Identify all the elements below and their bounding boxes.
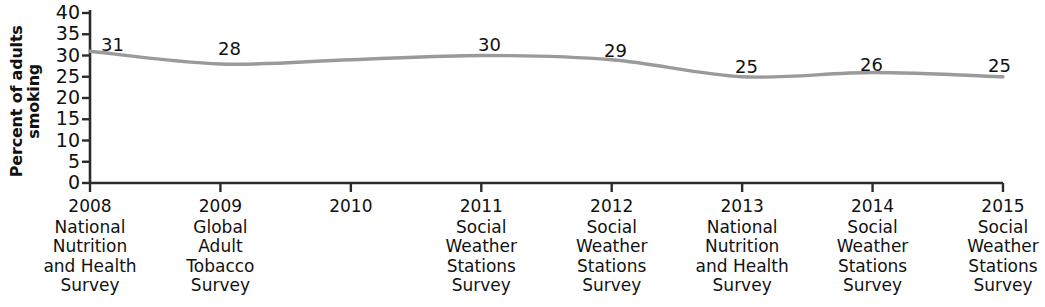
x-tick-survey-line: Social [406, 218, 556, 238]
x-tick-survey-line: Weather [537, 237, 687, 257]
data-value-label: 25 [735, 58, 758, 76]
x-tick-survey-line: Weather [406, 237, 556, 257]
x-tick-year: 2014 [798, 197, 948, 217]
x-tick-survey-line: Survey [928, 276, 1045, 296]
data-value-label: 28 [218, 40, 241, 58]
x-tick-survey-line: Stations [928, 257, 1045, 277]
x-axis-tick-marks [90, 183, 1003, 192]
data-value-label: 29 [604, 42, 627, 60]
x-tick-survey-line: Survey [537, 276, 687, 296]
x-tick-label-2010: 2010 [276, 197, 426, 218]
x-tick-survey-line: Social [537, 218, 687, 238]
x-tick-year: 2012 [537, 197, 687, 217]
x-tick-label-2008: 2008NationalNutritionand HealthSurvey [15, 197, 165, 296]
x-tick-year: 2009 [145, 197, 295, 217]
x-tick-survey-line: and Health [15, 257, 165, 277]
x-tick-survey-line: Adult [145, 237, 295, 257]
x-tick-survey-line: Survey [145, 276, 295, 296]
x-tick-year: 2008 [15, 197, 165, 217]
x-tick-survey-line: Weather [798, 237, 948, 257]
x-tick-label-2009: 2009GlobalAdultTobaccoSurvey [145, 197, 295, 296]
x-tick-survey-line: Weather [928, 237, 1045, 257]
x-tick-year: 2010 [276, 197, 426, 217]
data-value-label: 25 [988, 57, 1011, 75]
x-tick-survey-line: Tobacco [145, 257, 295, 277]
x-tick-survey-line: Nutrition [667, 237, 817, 257]
x-tick-survey-line: Survey [15, 276, 165, 296]
x-tick-label-2013: 2013NationalNutritionand HealthSurvey [667, 197, 817, 296]
x-tick-survey-line: and Health [667, 257, 817, 277]
data-value-label: 30 [478, 36, 501, 54]
x-tick-survey-line: Survey [406, 276, 556, 296]
x-tick-survey-line: Stations [537, 257, 687, 277]
x-tick-survey-line: Nutrition [15, 237, 165, 257]
x-tick-year: 2013 [667, 197, 817, 217]
x-tick-survey-line: Social [928, 218, 1045, 238]
x-tick-survey-line: Survey [798, 276, 948, 296]
data-value-label: 26 [860, 56, 883, 74]
x-tick-survey-line: Stations [798, 257, 948, 277]
x-tick-survey-line: Stations [406, 257, 556, 277]
axis-lines [90, 10, 1003, 183]
x-tick-survey-line: National [15, 218, 165, 238]
x-tick-label-2011: 2011SocialWeatherStationsSurvey [406, 197, 556, 296]
x-tick-year: 2011 [406, 197, 556, 217]
x-tick-label-2012: 2012SocialWeatherStationsSurvey [537, 197, 687, 296]
x-tick-year: 2015 [928, 197, 1045, 217]
x-tick-survey-line: Global [145, 218, 295, 238]
x-tick-label-2015: 2015SocialWeatherStationsSurvey [928, 197, 1045, 296]
x-tick-survey-line: National [667, 218, 817, 238]
x-tick-label-2014: 2014SocialWeatherStationsSurvey [798, 197, 948, 296]
x-tick-survey-line: Survey [667, 276, 817, 296]
x-tick-survey-line: Social [798, 218, 948, 238]
smoking-prevalence-line-chart: Percent of adults smoking 40353025201510… [0, 0, 1045, 307]
data-value-label: 31 [101, 36, 124, 54]
